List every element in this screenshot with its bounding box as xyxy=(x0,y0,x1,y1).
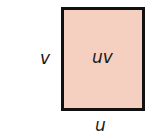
width-label: u xyxy=(95,117,106,134)
height-label: v xyxy=(40,50,50,67)
area-label: uv xyxy=(92,49,113,66)
